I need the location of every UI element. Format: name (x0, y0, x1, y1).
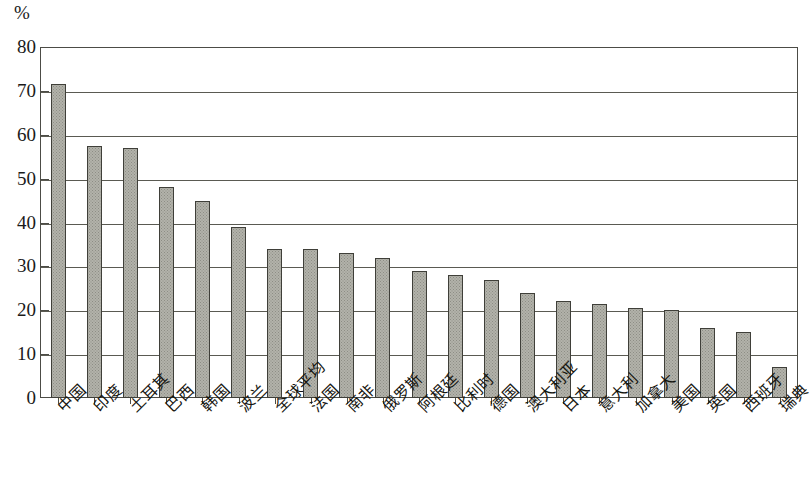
bar (520, 293, 535, 398)
y-axis-tick-label: 40 (2, 213, 36, 232)
y-axis-tick-label: 10 (2, 344, 36, 363)
y-axis-tick-label: 70 (2, 81, 36, 100)
y-axis-tick-label: 30 (2, 256, 36, 275)
y-axis-tick-label: 0 (2, 388, 36, 407)
y-axis-tick-mark (40, 266, 49, 267)
y-axis-tick-labels: 01020304050607080 (0, 47, 36, 398)
bar (267, 249, 282, 398)
bar (339, 253, 354, 398)
bar (51, 84, 66, 398)
y-axis-tick-label: 50 (2, 169, 36, 188)
y-axis-tick-mark (40, 223, 49, 224)
bar (736, 332, 751, 398)
bar (159, 187, 174, 398)
y-axis-tick-mark (40, 354, 49, 355)
y-axis-unit-label: % (14, 2, 30, 24)
bar (195, 201, 210, 398)
y-axis-tick-label: 20 (2, 300, 36, 319)
bar (375, 258, 390, 398)
bar (231, 227, 246, 398)
x-axis-tick-labels: 中国印度土耳其巴西韩国波兰全球平均法国南非俄罗斯阿根廷比利时德国澳大利亚日本意大… (40, 404, 798, 483)
y-axis-tick-mark (40, 91, 49, 92)
y-axis-tick-label: 60 (2, 125, 36, 144)
bars-container (40, 47, 798, 398)
y-axis-tick-mark (40, 179, 49, 180)
y-axis-tick-mark (40, 310, 49, 311)
bar (592, 304, 607, 398)
y-axis-tick-label: 80 (2, 37, 36, 56)
bar (87, 146, 102, 398)
bar (123, 148, 138, 398)
bar (700, 328, 715, 398)
y-axis-tick-mark (40, 135, 49, 136)
